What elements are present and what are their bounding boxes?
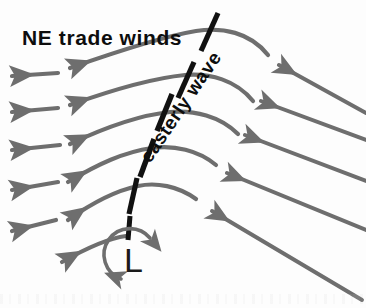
- trough-dash: [129, 178, 137, 214]
- streamline: [62, 236, 126, 262]
- inflow-arrow: [227, 173, 366, 230]
- easterly-wave-diagram: NE trade winds easterly wave L: [0, 0, 366, 308]
- inflow-arrow: [245, 135, 366, 181]
- edge-arrow: [12, 73, 58, 76]
- edge-arrow: [12, 108, 58, 112]
- edge-arrow: [12, 182, 58, 190]
- inflow-arrow: [261, 101, 366, 140]
- inflow-arrow-group: [212, 65, 366, 300]
- edge-arrow: [12, 145, 60, 150]
- trade-winds-label: NE trade winds: [22, 26, 182, 49]
- low-center-label: L: [124, 241, 143, 279]
- streamline: [70, 75, 253, 105]
- diagram-canvas: NE trade winds easterly wave L: [0, 0, 366, 308]
- edge-arrow: [12, 220, 56, 231]
- inflow-arrow: [212, 211, 362, 300]
- edge-arrow-group: [12, 73, 60, 231]
- inflow-arrow: [279, 65, 366, 113]
